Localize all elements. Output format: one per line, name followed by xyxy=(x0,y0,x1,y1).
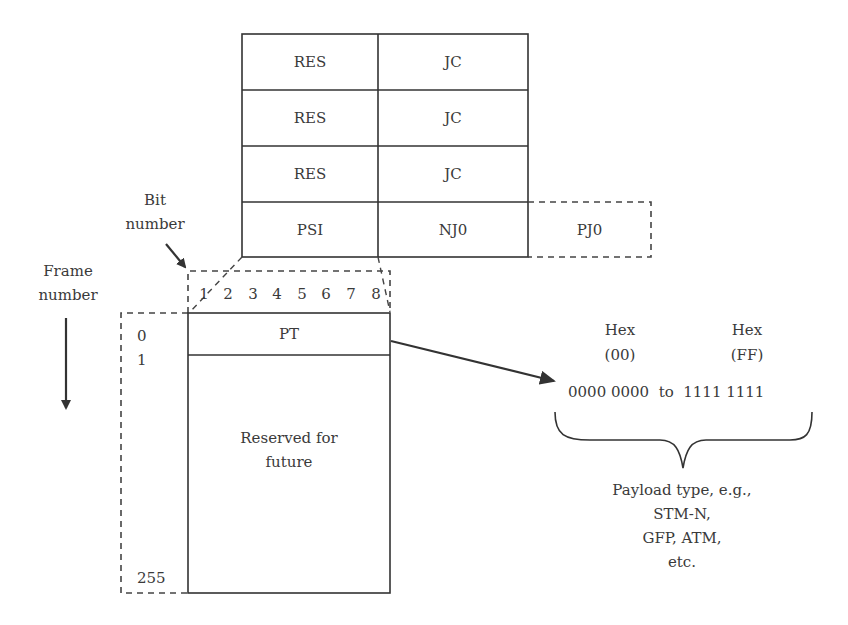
top-table-row3-col2: JC xyxy=(378,165,528,183)
bit-number-label-line1: Bit xyxy=(144,191,166,209)
reserved-label-line1: Reserved for xyxy=(188,429,390,447)
top-table-row2-col1: RES xyxy=(242,109,378,127)
payload-note-line4: etc. xyxy=(668,553,696,571)
hex-right-heading: Hex xyxy=(732,321,762,339)
payload-note-line1: Payload type, e.g., xyxy=(612,481,751,499)
frame-number-label-line2: number xyxy=(38,286,97,304)
reserved-label-line2: future xyxy=(188,453,390,471)
bit-number-8: 8 xyxy=(371,285,381,303)
psi-cell-label: PSI xyxy=(242,221,378,239)
bit-number-label-line2: number xyxy=(125,215,184,233)
hex-left-heading: Hex xyxy=(605,321,635,339)
hex-left-value: (00) xyxy=(605,346,636,364)
bit-number-2: 2 xyxy=(223,285,233,303)
top-table-row3-col1: RES xyxy=(242,165,378,183)
bit-number-5: 5 xyxy=(297,285,307,303)
top-table-row2-col2: JC xyxy=(378,109,528,127)
nj0-cell-label: NJ0 xyxy=(378,221,528,239)
hex-right-value: (FF) xyxy=(731,346,764,364)
bit-number-arrow xyxy=(166,244,185,267)
hex-range-text: 0000 0000 to 1111 1111 xyxy=(568,383,764,401)
frame-number-dashed-box xyxy=(121,313,188,593)
bit-number-7: 7 xyxy=(346,285,356,303)
bit-number-6: 6 xyxy=(321,285,331,303)
frame-number-0: 0 xyxy=(137,327,147,345)
frame-number-255: 255 xyxy=(137,569,166,587)
top-table-row1-col2: JC xyxy=(378,53,528,71)
bit-number-3: 3 xyxy=(248,285,258,303)
psi-expansion-lines xyxy=(190,257,390,312)
top-table-row1-col1: RES xyxy=(242,53,378,71)
payload-note-line3: GFP, ATM, xyxy=(642,529,721,547)
pt-label: PT xyxy=(188,325,390,343)
pj0-cell-label: PJ0 xyxy=(528,221,651,239)
payload-note-line2: STM-N, xyxy=(653,505,711,523)
frame-number-label-line1: Frame xyxy=(43,262,93,280)
bit-number-1: 1 xyxy=(199,285,209,303)
curly-brace xyxy=(555,412,812,468)
bit-number-4: 4 xyxy=(272,285,282,303)
pt-to-hex-arrow xyxy=(391,341,554,381)
bit-number-dashed-box xyxy=(188,271,390,313)
frame-number-1: 1 xyxy=(137,351,147,369)
